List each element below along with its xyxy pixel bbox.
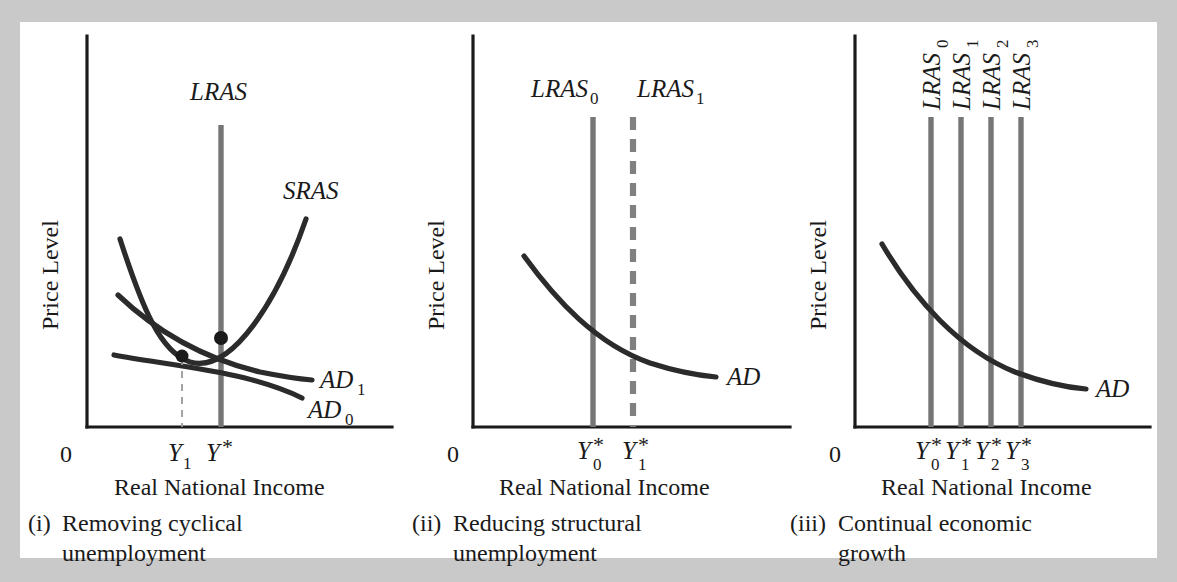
panel-iii-lras1-label-text: LRAS (948, 53, 975, 111)
panel-i-lras-label: LRAS (189, 78, 247, 105)
panel-iii-lras2-label-sub: 2 (993, 40, 1012, 49)
panel-iii-lras0-label: LRAS 0 (918, 40, 952, 112)
panel-iii-xtick-y1: Y * 1 (945, 432, 972, 474)
panel-i-origin-label: 0 (60, 441, 72, 467)
panel-iii-xtick-y2: Y * 2 (975, 432, 1002, 474)
panel-i-caption-line1: Removing cyclical (62, 510, 243, 536)
panel-iii-lras3-label-text: LRAS (1008, 53, 1035, 111)
panel-ii-caption-line2: unemployment (453, 540, 597, 566)
panel-ii-lras0-label-sub: 0 (590, 89, 599, 108)
panel-iii-caption-line1: Continual economic (838, 510, 1032, 536)
panel-iii-ad-curve (882, 244, 1086, 389)
panel-i-xtick-ystar-text: Y (206, 439, 223, 466)
panel-iii: LRAS 0 LRAS 1 LRAS 2 LRAS 3 AD 0 Y * (790, 36, 1150, 566)
panel-iii-xtick-y0: Y * 0 (915, 432, 942, 474)
panel-iii-xtick-y1-sup: * (961, 432, 972, 457)
panel-i-xtick-y1-sub: 1 (183, 454, 192, 473)
panel-ii-origin-label: 0 (447, 441, 459, 467)
panel-ii-xtick-y1: Y * 1 (622, 432, 649, 474)
panel-iii-lras3-label-sub: 3 (1023, 40, 1042, 49)
panel-iii-xtick-y2-text: Y (975, 437, 992, 464)
panel-i-sras-label: SRAS (283, 177, 339, 204)
panel-ii-xtick-y1-text: Y (622, 437, 639, 464)
panel-ii-y-axis-label: Price Level (423, 220, 449, 330)
panel-ii-xtick-y0-sub: 0 (593, 455, 602, 474)
panel-ii-ad-curve (524, 256, 716, 377)
panel-ii-xtick-y0-sup: * (593, 432, 604, 457)
panel-iii-lras2-label: LRAS 2 (978, 40, 1012, 112)
panel-ii-lras0-label-text: LRAS (530, 75, 588, 102)
panel-iii-lras3-label: LRAS 3 (1008, 40, 1042, 112)
panel-ii-lras1-label-text: LRAS (636, 75, 694, 102)
panel-iii-xtick-y2-sup: * (991, 432, 1002, 457)
panel-i-caption-line2: unemployment (62, 540, 206, 566)
panel-iii-origin-label: 0 (829, 441, 841, 467)
panel-i-caption-marker: (i) (28, 510, 51, 536)
panel-i-ad0-label-sub: 0 (345, 410, 354, 429)
panel-iii-lras1-label: LRAS 1 (948, 40, 982, 112)
panel-ii-lras1-label-sub: 1 (696, 89, 705, 108)
panel-i-ad0-label-text: AD (306, 396, 341, 423)
panel-ii-caption-line1: Reducing structural (453, 510, 642, 536)
panel-iii-x-axis-label: Real National Income (881, 474, 1092, 500)
panel-i-ad1-label-sub: 1 (357, 380, 366, 399)
panel-i-ad1-label: AD 1 (318, 366, 366, 399)
panel-iii-xtick-y3: Y * 3 (1005, 432, 1032, 474)
panel-ii-xtick-y0-text: Y (577, 437, 594, 464)
panel-i-equilibrium-dot-1 (176, 350, 189, 363)
panel-iii-lras2-label-text: LRAS (978, 53, 1005, 111)
panel-ii-xtick-y1-sup: * (638, 432, 649, 457)
panel-i-xtick-y1: Y 1 (168, 439, 192, 473)
panel-iii-xtick-y2-sub: 2 (991, 455, 1000, 474)
panel-i-ad0-label: AD 0 (306, 396, 354, 429)
panel-iii-xtick-y0-sup: * (931, 432, 942, 457)
panel-iii-xtick-y1-text: Y (945, 437, 962, 464)
panel-i-ad1-label-text: AD (318, 366, 353, 393)
panel-ii-xtick-y0: Y * 0 (577, 432, 604, 474)
panel-ii-ad-label: AD (725, 363, 760, 390)
panel-i-y-axis-label: Price Level (37, 220, 63, 330)
panel-iii-lras1-label-sub: 1 (963, 40, 982, 49)
panel-i-xtick-ystar-sup: * (222, 434, 233, 459)
figure-page: LRAS SRAS AD 1 AD 0 0 Y 1 Y (0, 0, 1177, 582)
panel-ii-x-axis-label: Real National Income (499, 474, 710, 500)
panel-iii-xtick-y3-sub: 3 (1021, 455, 1030, 474)
panel-ii-caption-marker: (ii) (412, 510, 441, 536)
ad-as-diagram-svg: LRAS SRAS AD 1 AD 0 0 Y 1 Y (0, 0, 1177, 582)
panel-iii-lras0-label-text: LRAS (918, 53, 945, 111)
panel-iii-y-axis-label: Price Level (805, 220, 831, 330)
panel-iii-xtick-y3-sup: * (1021, 432, 1032, 457)
panel-ii-lras1-label: LRAS 1 (636, 75, 705, 108)
panel-i: LRAS SRAS AD 1 AD 0 0 Y 1 Y (28, 36, 392, 566)
panel-iii-caption-line2: growth (838, 540, 906, 566)
panel-ii-lras0-label: LRAS 0 (530, 75, 599, 108)
panel-iii-xtick-y0-sub: 0 (931, 455, 940, 474)
panel-iii-xtick-y1-sub: 1 (961, 455, 970, 474)
panel-iii-lras0-label-sub: 0 (933, 40, 952, 49)
panel-iii-xtick-y3-text: Y (1005, 437, 1022, 464)
panel-iii-ad-label: AD (1094, 375, 1129, 402)
panel-ii-xtick-y1-sub: 1 (638, 455, 647, 474)
panel-i-x-axis-label: Real National Income (114, 474, 325, 500)
panel-i-equilibrium-dot-2 (214, 331, 228, 345)
panel-ii: LRAS 0 LRAS 1 AD 0 Y * 0 Y * 1 (412, 36, 790, 566)
panel-iii-caption-marker: (iii) (790, 510, 826, 536)
panel-iii-xtick-y0-text: Y (915, 437, 932, 464)
panel-i-sras-curve (120, 219, 306, 363)
panel-i-xtick-ystar: Y * (206, 434, 233, 466)
